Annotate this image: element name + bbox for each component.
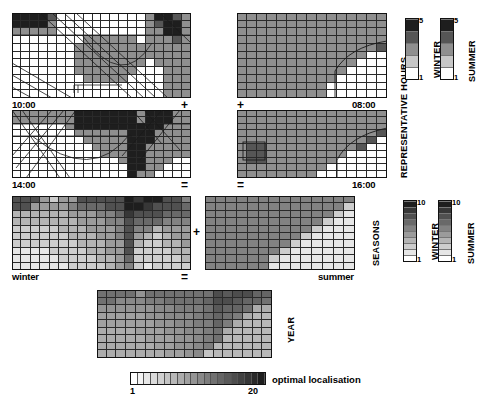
colorbar-max-label: 20 [248, 386, 258, 396]
panel-label-1400: 14:00 [12, 179, 35, 190]
operator-equals-top-left: = [181, 179, 188, 191]
panel-label-0800: 08:00 [352, 99, 375, 110]
panel-0800 [237, 13, 387, 98]
legend-summer-seasons-min: 1 [452, 255, 456, 264]
legend-winter-hours [405, 18, 419, 80]
panel-label-summer: summer [318, 271, 354, 282]
legend-summer-hours-min: 1 [454, 73, 458, 82]
panel-label-1000: 10:00 [12, 99, 35, 110]
axis-label-seasons: SEASONS [371, 220, 381, 266]
heatmap-grid-0800 [237, 13, 387, 98]
legend-summer-seasons [438, 200, 452, 262]
axis-label-year: YEAR [286, 317, 296, 343]
panel-winter [12, 196, 191, 270]
legend-summer-seasons-label: SUMMER [466, 222, 476, 264]
operator-plus-seasons: + [193, 226, 200, 238]
heatmap-grid-1000 [12, 13, 191, 98]
panel-1400 [12, 110, 191, 178]
legend-winter-seasons-max: 10 [417, 198, 425, 207]
panel-label-1600: 16:00 [352, 179, 375, 190]
heatmap-grid-year [97, 290, 272, 358]
panel-1000 [12, 13, 191, 98]
colorbar-title: optimal localisation [272, 374, 361, 385]
heatmap-grid-summer [205, 196, 355, 270]
panel-year [97, 290, 272, 358]
legend-summer-hours [440, 18, 454, 80]
operator-equals-top-right: = [237, 179, 244, 191]
panel-label-winter: winter [12, 271, 39, 282]
operator-equals-seasons: = [181, 271, 188, 283]
panel-summer [205, 196, 355, 270]
legend-summer-seasons-max: 10 [452, 198, 460, 207]
legend-winter-seasons-min: 1 [417, 255, 421, 264]
legend-winter-hours-min: 1 [419, 73, 423, 82]
colorbar-min-label: 1 [130, 386, 135, 396]
legend-winter-seasons [403, 200, 417, 262]
heatmap-grid-winter [12, 196, 191, 270]
heatmap-grid-1600 [237, 110, 387, 178]
legend-summer-hours-label: SUMMER [467, 40, 477, 82]
heatmap-grid-1400 [12, 110, 191, 178]
colorbar-optimal-localisation [130, 372, 266, 385]
panel-1600 [237, 110, 387, 178]
legend-winter-hours-max: 5 [419, 16, 423, 25]
legend-summer-hours-max: 5 [454, 16, 458, 25]
